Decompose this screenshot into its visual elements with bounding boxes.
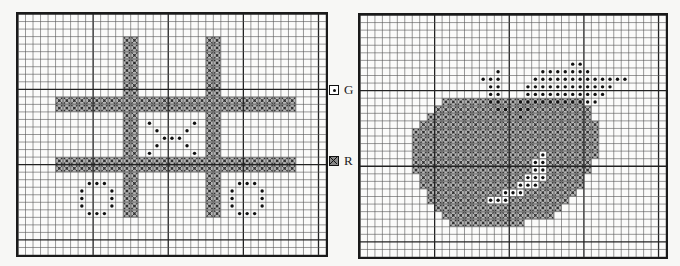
apple-grid [360, 15, 666, 257]
tic-tac-toe-grid [18, 14, 326, 255]
cross-symbol-icon [329, 156, 339, 166]
legend-red: R [329, 153, 353, 169]
legend-green: G [329, 82, 353, 98]
dot-symbol-icon [329, 85, 339, 95]
tic-tac-toe-chart [16, 12, 328, 257]
legend-label-r: R [344, 153, 353, 169]
legend-label-g: G [344, 82, 353, 98]
apple-chart [358, 13, 668, 259]
